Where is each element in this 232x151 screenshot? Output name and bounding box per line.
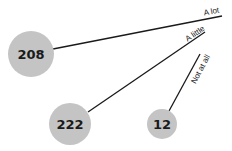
edge-a-little-line bbox=[88, 32, 205, 112]
bubble-diagram: A lot A little Not at all 208 222 12 bbox=[0, 0, 232, 151]
edge-label-not-at-all: Not at all bbox=[189, 53, 212, 85]
node-12-value: 12 bbox=[153, 117, 171, 132]
node-208-value: 208 bbox=[17, 47, 44, 62]
node-222-value: 222 bbox=[56, 117, 83, 132]
edge-label-a-lot: A lot bbox=[203, 6, 221, 18]
